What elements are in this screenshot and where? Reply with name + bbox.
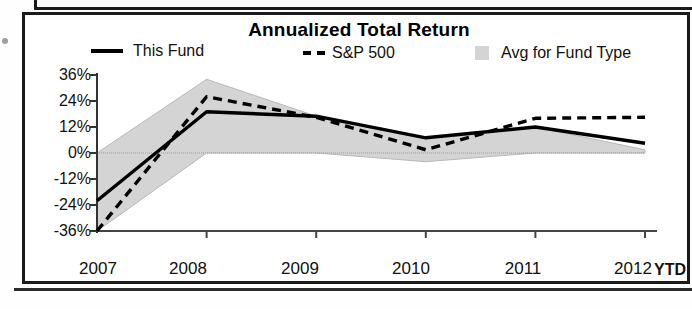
x-axis-ytd-label: YTD <box>654 261 686 279</box>
x-tick-label-2008: 2008 <box>169 259 207 279</box>
scan-speck-artifact <box>2 38 8 44</box>
x-tick-label-2007: 2007 <box>79 259 117 279</box>
chart-canvas <box>25 63 692 255</box>
x-axis-labels: 2007 2008 2009 2010 2011 2012 YTD <box>25 253 692 285</box>
solid-line-icon <box>91 49 123 53</box>
x-tick-label-2009: 2009 <box>281 259 319 279</box>
legend-item-sp500: S&P 500 <box>303 44 395 62</box>
legend-item-this-fund: This Fund <box>91 42 204 60</box>
chart-title: Annualized Total Return <box>25 19 692 41</box>
x-tick-label-2010: 2010 <box>392 259 430 279</box>
legend-item-avg-fund-type: Avg for Fund Type <box>475 44 631 62</box>
chart-panel: Annualized Total Return This Fund S&P 50… <box>22 12 690 284</box>
legend-label-sp500: S&P 500 <box>332 44 395 62</box>
chart-screenshot: Annualized Total Return This Fund S&P 50… <box>0 0 692 309</box>
avg-fund-type-band <box>97 79 645 231</box>
x-tick-label-2012: 2012 <box>614 259 652 279</box>
x-tick-label-2011: 2011 <box>505 259 542 279</box>
plot-area: 36% 24% 12% 0% -12% -24% -36% 2007 2008 … <box>25 63 692 285</box>
legend-label-this-fund: This Fund <box>133 42 204 60</box>
gray-square-swatch-icon <box>475 46 489 60</box>
legend-label-avg-fund-type: Avg for Fund Type <box>501 44 631 62</box>
top-scan-rule <box>34 0 692 10</box>
bottom-scan-rule <box>14 288 692 291</box>
dashed-line-icon <box>303 51 325 55</box>
top-scan-rule-cap <box>34 0 37 9</box>
